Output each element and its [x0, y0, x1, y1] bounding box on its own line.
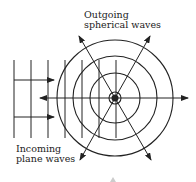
- outgoing-label-line2: spherical waves: [84, 20, 161, 30]
- incoming-label-line2: plane waves: [16, 154, 75, 164]
- incoming-waves-label: Incoming plane waves: [16, 144, 75, 164]
- outgoing-waves-label: Outgoing spherical waves: [84, 10, 161, 30]
- faint-triangle-mark: [110, 177, 116, 182]
